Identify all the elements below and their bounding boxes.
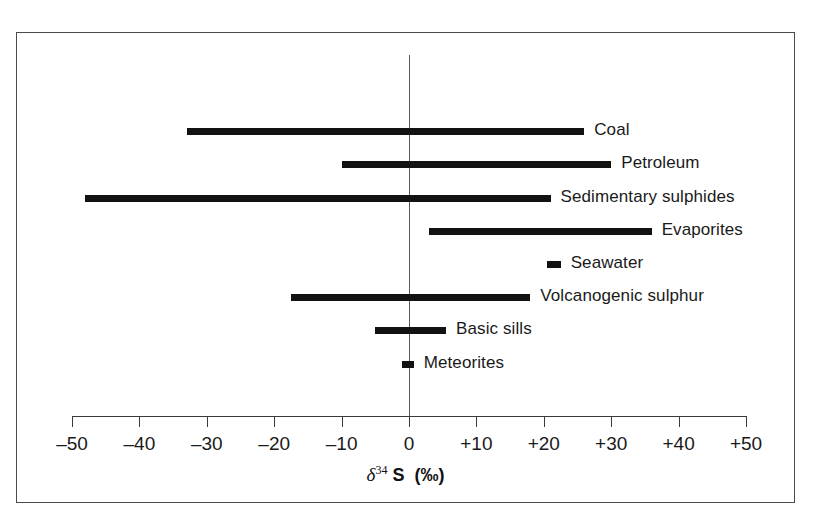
range-bar-label: Coal: [594, 120, 629, 140]
bar-row: Petroleum: [17, 154, 794, 174]
x-axis-tick: [274, 416, 275, 427]
range-bar-label: Sedimentary sulphides: [561, 187, 735, 207]
range-bar-label: Volcanogenic sulphur: [540, 286, 704, 306]
figure-frame: CoalPetroleumSedimentary sulphidesEvapor…: [16, 32, 795, 503]
delta-symbol: δ34: [367, 464, 388, 485]
range-bar-label: Evaporites: [662, 220, 743, 240]
x-axis-tick: [544, 416, 545, 427]
x-axis-tick-label: +20: [528, 434, 560, 454]
x-axis-tick-label: –20: [258, 434, 290, 454]
x-axis-tick-label: –40: [124, 434, 156, 454]
x-axis-tick: [679, 416, 680, 427]
plot-area: CoalPetroleumSedimentary sulphidesEvapor…: [17, 33, 794, 502]
range-bar: [402, 361, 413, 368]
range-bar-label: Basic sills: [456, 319, 532, 339]
x-axis-tick: [207, 416, 208, 427]
x-axis-tick-label: –30: [191, 434, 223, 454]
range-bar: [291, 294, 530, 301]
x-axis-tick: [611, 416, 612, 427]
bar-row: Sedimentary sulphides: [17, 188, 794, 208]
bar-row: Basic sills: [17, 320, 794, 340]
bar-row: Seawater: [17, 254, 794, 274]
x-axis-tick: [72, 416, 73, 427]
range-bar: [375, 327, 446, 334]
element-symbol: S: [387, 465, 404, 485]
x-axis-title: δ34 S (‰): [17, 463, 794, 486]
range-bar: [187, 128, 585, 135]
figure-canvas: CoalPetroleumSedimentary sulphidesEvapor…: [0, 0, 813, 529]
x-axis-tick-label: +50: [730, 434, 762, 454]
x-axis-tick: [139, 416, 140, 427]
x-axis-tick: [476, 416, 477, 427]
x-axis-tick-label: +40: [662, 434, 694, 454]
range-bar-label: Seawater: [571, 253, 644, 273]
x-axis-tick-label: +10: [460, 434, 492, 454]
bar-row: Coal: [17, 121, 794, 141]
x-axis-tick: [342, 416, 343, 427]
x-axis-tick-label: –10: [326, 434, 358, 454]
range-bar: [547, 261, 560, 268]
bar-row: Meteorites: [17, 354, 794, 374]
range-bar: [429, 228, 651, 235]
bar-row: Evaporites: [17, 221, 794, 241]
range-bar-label: Petroleum: [621, 153, 699, 173]
units-label: (‰): [404, 465, 444, 485]
range-bar-label: Meteorites: [424, 353, 504, 373]
bar-row: Volcanogenic sulphur: [17, 287, 794, 307]
range-bar: [85, 195, 550, 202]
x-axis-tick: [409, 416, 410, 427]
range-bar: [342, 161, 612, 168]
x-axis-tick-label: –50: [56, 434, 88, 454]
x-axis-tick-label: +30: [595, 434, 627, 454]
x-axis-tick: [746, 416, 747, 427]
x-axis-tick-label: 0: [404, 434, 415, 454]
mass-number: 34: [375, 463, 387, 477]
